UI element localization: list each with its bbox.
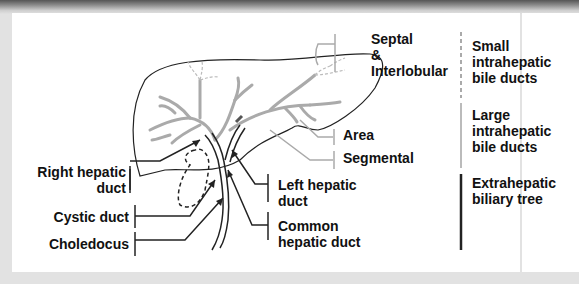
label-extrahepatic: Extrahepatic biliary tree (472, 175, 556, 207)
large-intrahepatic-ducts (150, 75, 340, 143)
label-segmental: Segmental (343, 150, 414, 166)
label-septal-interlobular: Septal & Interlobular (371, 31, 448, 79)
gallbladder-icon (178, 149, 208, 207)
left-leader-lines (130, 140, 268, 256)
label-large-intrahepatic: Large intrahepatic bile ducts (472, 107, 551, 155)
label-right-hepatic-duct: Right hepatic duct (24, 164, 126, 196)
label-left-hepatic-duct: Left hepatic duct (278, 177, 357, 209)
label-cystic-duct: Cystic duct (24, 209, 129, 225)
label-common-hepatic-duct: Common hepatic duct (278, 218, 360, 250)
label-choledocus: Choledocus (24, 236, 129, 252)
small-intrahepatic-ducts (188, 58, 345, 80)
label-area: Area (343, 127, 374, 143)
extrahepatic-ducts (205, 125, 245, 250)
label-small-intrahepatic: Small intrahepatic bile ducts (472, 38, 551, 86)
